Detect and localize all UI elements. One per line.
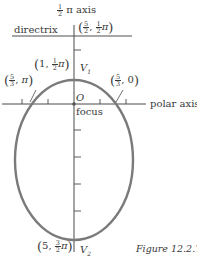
fraction: 12 <box>57 4 63 17</box>
right-point-leader <box>116 90 123 102</box>
figure-caption: Figure 12.2.7 <box>136 244 197 254</box>
v1-point-label: (1, 12π) <box>34 58 70 71</box>
right-point-label: (53, 0) <box>110 74 139 87</box>
directrix-label: directrix <box>14 25 58 35</box>
focus-label: focus <box>76 107 103 117</box>
v2-label: V2 <box>80 245 91 256</box>
left-point-label: (53, π) <box>4 74 33 87</box>
v1-label: V1 <box>80 63 91 75</box>
origin-label: O <box>76 93 84 103</box>
v2-point-label: (5, 32π) <box>37 240 73 253</box>
directrix-point-label: (52, 12π) <box>78 21 113 34</box>
polar-ellipse-figure: 12 π axis directrix (52, 12π) (1, 12π) V… <box>0 0 197 256</box>
half-pi-axis-label: 12 π axis <box>57 4 96 17</box>
diagram-canvas <box>0 0 197 256</box>
polar-axis-label: polar axis <box>150 99 197 109</box>
